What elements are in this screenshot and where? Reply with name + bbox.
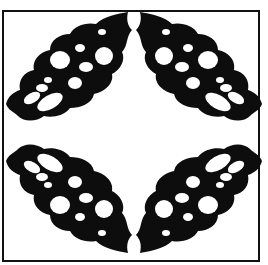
leaf-pattern-illustration [0, 0, 268, 265]
leaf-bottom-left [6, 145, 132, 254]
leaf-top-left [6, 12, 132, 121]
leaf-top-right [136, 12, 262, 121]
leaf-bottom-right [136, 145, 262, 254]
